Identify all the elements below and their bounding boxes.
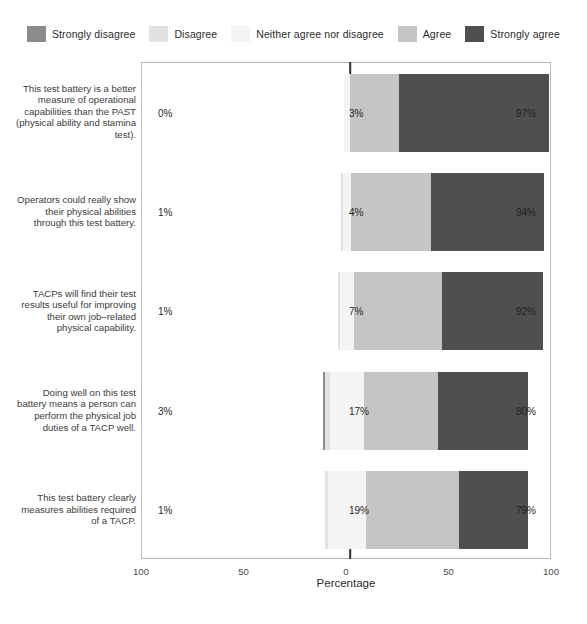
legend-swatch-strongly-disagree [27, 26, 46, 42]
x-tick-label: 50 [443, 566, 454, 577]
legend-swatch-disagree [149, 26, 168, 42]
category-label: Operators could really showtheir physica… [6, 194, 136, 229]
value-label-agree-total: 92% [516, 306, 536, 317]
category-label-line: test). [6, 129, 136, 141]
category-label: TACPs will find their testresults useful… [6, 287, 136, 333]
chart-row: 1%19%79% [142, 461, 550, 560]
legend-item-agree[interactable]: Agree [398, 26, 452, 42]
legend-item-disagree[interactable]: Disagree [149, 26, 217, 42]
stacked-bar[interactable] [341, 173, 544, 251]
bar-segment-agree[interactable] [354, 272, 442, 350]
bar-segment-agree[interactable] [366, 471, 458, 549]
category-label-line: through this test battery. [6, 217, 136, 229]
category-label-line: battery means a person can [6, 398, 136, 410]
category-label-line: their physical abilities [6, 205, 136, 217]
x-axis-title: Percentage [141, 577, 551, 589]
category-label-line: This test battery is a better [6, 83, 136, 95]
legend-item-strongly-agree[interactable]: Strongly agree [465, 26, 560, 42]
category-label-line: (physical ability and stamina [6, 117, 136, 129]
value-label-disagree-total: 1% [158, 207, 172, 218]
value-label-disagree-total: 0% [158, 107, 172, 118]
category-label-line: their own job–related [6, 311, 136, 323]
chart-plot-panel: 0%3%97%1%4%94%1%7%92%3%17%80%1%19%79% [141, 62, 551, 559]
value-label-agree-total: 80% [516, 405, 536, 416]
legend-item-strongly-disagree[interactable]: Strongly disagree [27, 26, 135, 42]
category-label-line: Doing well on this test [6, 387, 136, 399]
legend-swatch-agree [398, 26, 417, 42]
legend-swatch-strongly-agree [465, 26, 484, 42]
legend-label-agree: Agree [423, 28, 452, 40]
chart-legend: Strongly disagreeDisagreeNeither agree n… [0, 26, 587, 42]
value-label-disagree-total: 1% [158, 306, 172, 317]
legend-swatch-neither-agree-nor-disagree [231, 26, 250, 42]
chart-row: 0%3%97% [142, 63, 550, 162]
category-label-line: of a TACP. [6, 515, 136, 527]
category-label-line: measures abilities required [6, 504, 136, 516]
category-label-line: perform the physical job [6, 410, 136, 422]
legend-label-disagree: Disagree [174, 28, 217, 40]
category-label: This test battery clearlymeasures abilit… [6, 492, 136, 527]
value-label-neutral: 4% [349, 207, 363, 218]
value-label-disagree-total: 3% [158, 405, 172, 416]
bar-segment-strongly-agree[interactable] [438, 372, 528, 450]
value-label-disagree-total: 1% [158, 505, 172, 516]
legend-label-strongly-agree: Strongly agree [490, 28, 560, 40]
x-tick-label: 100 [133, 566, 149, 577]
x-tick-label: 0 [343, 566, 348, 577]
x-tick-label: 100 [543, 566, 559, 577]
category-label-line: duties of a TACP well. [6, 421, 136, 433]
value-label-neutral: 7% [349, 306, 363, 317]
chart-row: 1%7%92% [142, 262, 550, 361]
category-label-line: TACPs will find their test [6, 287, 136, 299]
x-tick-label: 50 [238, 566, 249, 577]
value-label-neutral: 17% [349, 405, 369, 416]
legend-item-neither-agree-nor-disagree[interactable]: Neither agree nor disagree [231, 26, 384, 42]
value-label-agree-total: 94% [516, 207, 536, 218]
value-label-neutral: 3% [349, 107, 363, 118]
category-label-line: Operators could really show [6, 194, 136, 206]
category-label-line: physical capability. [6, 322, 136, 334]
category-label-line: measure of operational [6, 94, 136, 106]
category-label: Doing well on this testbattery means a p… [6, 387, 136, 433]
category-label-line: capabilities than the PAST [6, 106, 136, 118]
category-label: This test battery is a bettermeasure of … [6, 83, 136, 141]
legend-label-strongly-disagree: Strongly disagree [52, 28, 135, 40]
category-label-line: This test battery clearly [6, 492, 136, 504]
legend-label-neither-agree-nor-disagree: Neither agree nor disagree [256, 28, 384, 40]
category-label-line: results useful for improving [6, 299, 136, 311]
value-label-agree-total: 79% [516, 505, 536, 516]
chart-row: 3%17%80% [142, 361, 550, 460]
bar-segment-agree[interactable] [364, 372, 438, 450]
chart-row: 1%4%94% [142, 162, 550, 261]
value-label-agree-total: 97% [516, 107, 536, 118]
stacked-bar[interactable] [338, 272, 543, 350]
value-label-neutral: 19% [349, 505, 369, 516]
